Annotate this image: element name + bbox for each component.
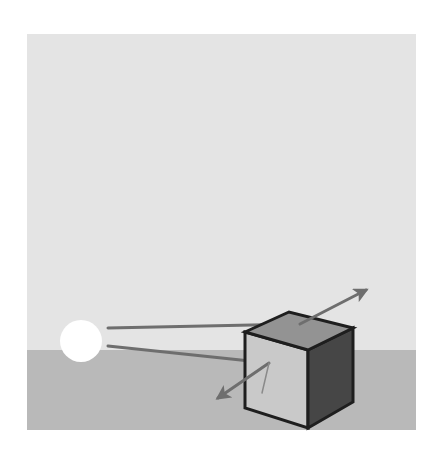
reflection-diagram bbox=[0, 0, 439, 450]
sky-background bbox=[27, 34, 416, 350]
light-source-icon bbox=[60, 320, 102, 362]
ground-plane bbox=[27, 350, 416, 430]
